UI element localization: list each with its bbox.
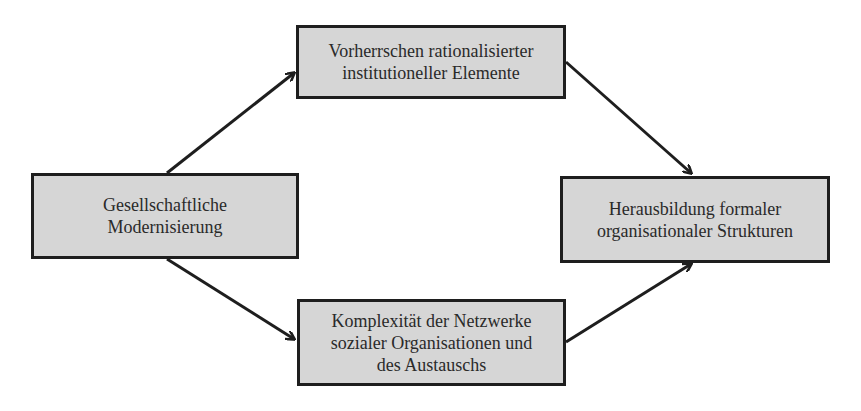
arrow-komplexitaet-to-herausbildung [566,264,691,342]
node-herausbildung-formaler-strukturen: Herausbildung formaler organisationaler … [560,176,830,263]
node-label: Gesellschaftliche Modernisierung [103,194,227,238]
node-label: Herausbildung formaler organisationaler … [597,198,793,242]
arrow-modernisierung-to-vorherrschen [167,73,294,173]
node-gesellschaftliche-modernisierung: Gesellschaftliche Modernisierung [31,173,299,259]
arrow-vorherrschen-to-herausbildung [566,62,691,173]
diagram-canvas: Gesellschaftliche Modernisierung Vorherr… [0,0,861,411]
node-komplexitaet-netzwerke: Komplexität der Netzwerke sozialer Organ… [297,299,566,386]
arrow-modernisierung-to-komplexitaet [167,259,294,339]
node-label: Vorherrschen rationalisierter institutio… [328,40,533,84]
node-vorherrschen-rationalisierter-elemente: Vorherrschen rationalisierter institutio… [296,25,566,99]
node-label: Komplexität der Netzwerke sozialer Organ… [331,310,533,376]
